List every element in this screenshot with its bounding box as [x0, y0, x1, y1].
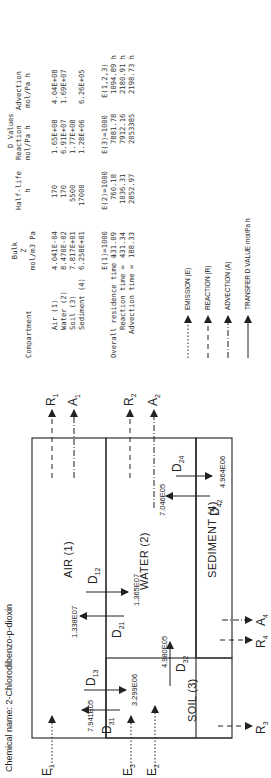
- legend-transfer: TRANSFER D VALUE mol/Pa h: [244, 218, 251, 310]
- legend-emission: EMISSION (E): [184, 268, 191, 310]
- compartment-header: Compartment: [24, 310, 33, 358]
- half-life-header: Half-life h: [14, 171, 32, 210]
- mass-balance-page: Chemical name: 2-Chlorodibenzo-p-dioxin: [0, 0, 271, 778]
- bulk-z-header: Bulk Z mol/m3 Pa: [10, 231, 37, 270]
- legend-reaction: REACTION (R): [204, 266, 211, 310]
- reaction-header: Reaction mol/Pa h: [14, 125, 32, 160]
- legend-advection: ADVECTION (A): [224, 262, 231, 310]
- advection-header: Advection mol/Pa h: [14, 71, 32, 110]
